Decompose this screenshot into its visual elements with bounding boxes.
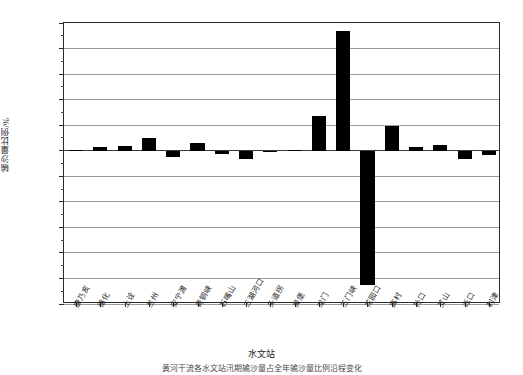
y-tick xyxy=(59,23,64,24)
y-tick xyxy=(59,176,64,177)
y-tick xyxy=(59,125,64,126)
bar xyxy=(263,151,277,152)
y-tick xyxy=(59,99,64,100)
y-tick xyxy=(59,74,64,75)
y-minor-tick xyxy=(61,35,64,36)
y-minor-tick xyxy=(61,61,64,62)
gridline xyxy=(64,125,499,126)
y-tick xyxy=(59,150,64,151)
gridline xyxy=(64,176,499,177)
y-minor-tick xyxy=(61,112,64,113)
bar xyxy=(93,147,107,151)
bar xyxy=(118,146,132,150)
y-minor-tick xyxy=(61,214,64,215)
y-minor-tick xyxy=(61,163,64,164)
bar xyxy=(433,145,447,151)
bar xyxy=(409,147,423,151)
bar xyxy=(385,126,399,150)
gridline xyxy=(64,48,499,49)
gridline xyxy=(64,227,499,228)
bar xyxy=(142,138,156,150)
y-minor-tick xyxy=(61,291,64,292)
bar xyxy=(288,150,302,151)
y-minor-tick xyxy=(61,240,64,241)
bar xyxy=(215,151,229,154)
y-tick xyxy=(59,252,64,253)
bar xyxy=(458,151,472,159)
bar xyxy=(69,150,83,151)
gridline xyxy=(64,99,499,100)
bar xyxy=(482,151,496,155)
gridline xyxy=(64,278,499,279)
gridline xyxy=(64,201,499,202)
figure-caption: 黄河干流各水文站汛期输沙量占全年输沙量比例沿程变化 xyxy=(0,364,523,374)
y-minor-tick xyxy=(61,265,64,266)
gridline xyxy=(64,252,499,253)
chart-figure: 输沙量比例/% 100806040200-20-40-60-80-100-120… xyxy=(0,0,523,375)
y-tick xyxy=(59,48,64,49)
bar xyxy=(312,116,326,150)
y-minor-tick xyxy=(61,137,64,138)
gridline xyxy=(64,74,499,75)
y-tick xyxy=(59,227,64,228)
x-axis-title: 水文站 xyxy=(0,347,523,360)
y-minor-tick xyxy=(61,189,64,190)
bar xyxy=(360,151,374,285)
y-minor-tick xyxy=(61,86,64,87)
y-tick xyxy=(59,201,64,202)
bar xyxy=(336,31,350,151)
bar xyxy=(190,143,204,151)
y-tick xyxy=(59,278,64,279)
bar xyxy=(166,151,180,157)
plot-area: 100806040200-20-40-60-80-100-120 xyxy=(63,22,500,303)
y-axis-title: 输沙量比例/% xyxy=(2,118,16,172)
bar xyxy=(239,151,253,159)
x-tick-labels: 唐乃亥循化上诠兰州安宁渡青铜峡石嘴山三湖河口头道拐吴堡龙门三门峡花园口高村孙口艾… xyxy=(63,305,500,351)
